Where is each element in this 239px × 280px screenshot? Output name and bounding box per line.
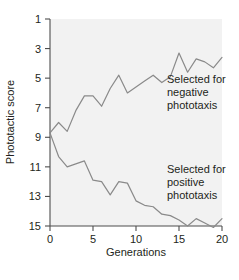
annotation-line: positive [167, 176, 204, 188]
y-tick-label: 9 [35, 131, 41, 143]
chart-figure: 13579111315 05101520 Generations Photota… [0, 0, 239, 280]
x-tick-label: 5 [90, 233, 96, 245]
x-tick-label: 20 [216, 233, 228, 245]
annotation-line: Selected for [167, 163, 226, 175]
y-axis-title: Phototactic score [4, 80, 16, 164]
annotation-line: phototaxis [167, 99, 218, 111]
x-axis-title: Generations [106, 246, 166, 258]
y-tick-label: 1 [35, 13, 41, 25]
y-tick-label: 11 [30, 161, 41, 173]
x-tick-label: 10 [130, 233, 142, 245]
annotation-line: negative [167, 86, 209, 98]
annotation-line: Selected for [167, 73, 226, 85]
y-tick-label: 7 [35, 102, 41, 114]
y-tick-label: 13 [29, 190, 41, 202]
y-tick-label: 15 [29, 220, 41, 232]
y-tick-label: 3 [35, 43, 41, 55]
y-tick-label: 5 [35, 72, 41, 84]
phototactic-score-line-chart: 13579111315 05101520 Generations Photota… [0, 0, 239, 280]
x-tick-label: 0 [47, 233, 53, 245]
x-tick-label: 15 [173, 233, 185, 245]
annotation-line: phototaxis [167, 189, 218, 201]
